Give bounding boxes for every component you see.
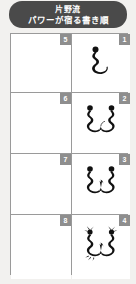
banner-title-secondary: パワーが宿る書き順 <box>28 15 109 25</box>
stroke-order-cell-1[interactable]: 1 <box>72 34 130 92</box>
stroke-order-cell-2[interactable]: 2 <box>72 93 130 153</box>
stroke-order-cell-6[interactable]: 6 <box>11 93 71 153</box>
cell-number-badge: 7 <box>60 154 71 165</box>
title-banner: 片野流 パワーが宿る書き順 <box>9 1 127 28</box>
stroke-order-cell-3[interactable]: 3 <box>72 154 130 214</box>
cell-number-badge: 8 <box>60 215 71 226</box>
banner-title-primary: 片野流 <box>55 5 81 14</box>
stroke-order-cell-7[interactable]: 7 <box>11 154 71 214</box>
cell-number-badge: 6 <box>60 93 71 104</box>
stroke-order-cell-8[interactable]: 8 <box>11 215 71 279</box>
cell-number-badge: 1 <box>119 34 130 45</box>
cell-number-badge: 4 <box>119 215 130 226</box>
stroke-order-cell-4[interactable]: 4 <box>72 215 130 279</box>
cell-number-badge: 2 <box>119 93 130 104</box>
cell-number-badge: 5 <box>60 34 71 45</box>
stroke-order-grid: 5 1 6 <box>10 33 128 275</box>
cell-number-badge: 3 <box>119 154 130 165</box>
stroke-order-cell-5[interactable]: 5 <box>11 34 71 92</box>
